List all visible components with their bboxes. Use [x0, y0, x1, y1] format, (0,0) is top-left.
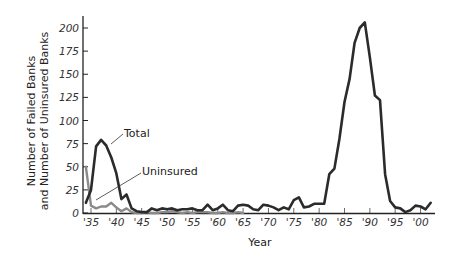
x-tick-label: '00 [412, 216, 429, 228]
x-axis-title: Year [247, 236, 272, 249]
y-tick-label: 75 [66, 138, 80, 150]
y-tick-label: 100 [59, 115, 79, 127]
y-tick-label: 175 [59, 45, 79, 57]
y-tick-label: 50 [66, 161, 80, 173]
y-tick-label: 25 [66, 184, 80, 196]
y-tick-label: 125 [59, 91, 79, 103]
y-axis-title: Number of Failed Banks and Number of Uni… [25, 31, 51, 210]
annotations: Total Uninsured [96, 127, 198, 200]
x-tick-label: '60 [210, 216, 227, 228]
x-tick-label: '55 [184, 216, 201, 228]
uninsured-label: Uninsured [142, 165, 198, 178]
x-tick-label: '40 [108, 216, 125, 228]
series-layer [86, 22, 431, 213]
total-label: Total [123, 127, 150, 140]
x-tick-label: '50 [159, 216, 176, 228]
y-axis-title-line1: Number of Failed Banks [25, 55, 38, 186]
x-tick-label: '65 [235, 216, 252, 228]
x-tick-label: '75 [286, 216, 303, 228]
series-total-line [86, 22, 431, 212]
x-tick-label: '95 [387, 216, 404, 228]
uninsured-leader-line [96, 173, 141, 200]
x-tick-label: '45 [134, 216, 151, 228]
x-tick-label: '35 [83, 216, 100, 228]
y-tick-label: 150 [59, 68, 79, 80]
x-tick-label: '80 [311, 216, 328, 228]
y-tick-label: 0 [72, 207, 79, 219]
total-leader-line [111, 134, 123, 144]
y-axis-title-line2: and Number of Uninsured Banks [38, 31, 51, 210]
line-chart: Number of Failed Banks and Number of Uni… [0, 0, 458, 268]
x-tick-label: '70 [260, 216, 277, 228]
x-tick-label: '85 [336, 216, 353, 228]
y-tick-label: 200 [59, 22, 79, 34]
x-tick-label: '90 [362, 216, 379, 228]
